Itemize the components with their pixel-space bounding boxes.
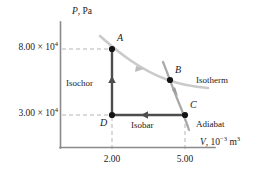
y-axis-title: P, Pa [72, 7, 92, 17]
y-tick-label-30000: 3.00 × 104 [0, 109, 58, 119]
pv-diagram-figure: P, Pa 8.00 × 104 3.00 × 104 V, 10−3 m3 2… [0, 0, 262, 179]
process-label-isobar: Isobar [131, 121, 154, 130]
diagram-canvas [0, 0, 262, 179]
isochor-arrowhead [108, 76, 116, 83]
isobar-arrowhead [141, 111, 148, 118]
y-tick-exponent-80000: 4 [55, 40, 58, 47]
state-point-B [167, 77, 173, 83]
y-axis-unit: , Pa [78, 6, 92, 16]
state-point-A [109, 46, 115, 52]
y-tick-exponent-30000: 4 [55, 106, 58, 113]
y-tick-mantissa-80000: 8.00 × 10 [18, 42, 54, 52]
x-axis-unit-post: m [227, 137, 237, 147]
x-tick-label-2: 2.00 [87, 155, 137, 165]
y-tick-mantissa-30000: 3.00 × 10 [18, 108, 54, 118]
isotherm-curve [100, 36, 208, 88]
state-label-C: C [190, 100, 197, 110]
x-axis-title: V, 10−3 m3 [200, 138, 240, 148]
process-label-isochor: Isochor [66, 79, 93, 88]
state-label-D: D [100, 118, 107, 128]
guide-lines [62, 49, 185, 152]
x-axis-unit-pre: , 10 [206, 137, 220, 147]
state-point-D [109, 112, 115, 118]
x-axis-unit-post-exp: 3 [237, 135, 240, 142]
x-tick-label-5: 5.00 [160, 155, 210, 165]
state-label-A: A [117, 33, 123, 43]
process-label-adiabat: Adiabat [196, 120, 225, 129]
process-label-isotherm: Isotherm [196, 76, 228, 85]
state-point-C [182, 112, 188, 118]
state-label-B: B [175, 65, 181, 75]
y-tick-label-80000: 8.00 × 104 [0, 43, 58, 53]
